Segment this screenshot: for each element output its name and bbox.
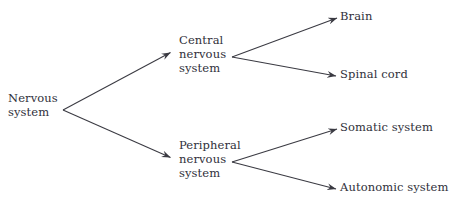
- node-central-nervous-system: Central nervous system: [179, 33, 226, 76]
- node-autonomic-system: Autonomic system: [340, 180, 449, 194]
- edge-cns-to-brain: [232, 18, 337, 57]
- edge-cns-to-spinal-cord: [232, 57, 336, 76]
- node-peripheral-nervous-system: Peripheral nervous system: [179, 138, 241, 181]
- node-brain: Brain: [340, 9, 372, 23]
- node-somatic-system: Somatic system: [340, 120, 433, 134]
- node-spinal-cord: Spinal cord: [340, 67, 408, 81]
- edge-root-to-pns: [63, 110, 171, 158]
- nervous-system-tree-diagram: Nervous system Central nervous system Pe…: [0, 0, 461, 215]
- node-nervous-system: Nervous system: [8, 91, 58, 119]
- edge-pns-to-somatic-system: [232, 129, 337, 162]
- edge-root-to-cns: [63, 53, 171, 111]
- edge-pns-to-autonomic-system: [232, 162, 336, 189]
